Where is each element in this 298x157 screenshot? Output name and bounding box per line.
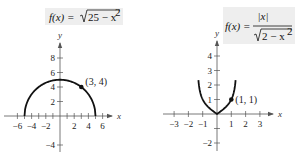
- y-axis-label: y: [57, 30, 62, 40]
- abs-over-sqrt-chart: f(x) = |x| 2 − x 2 xy −3−2−1123−21234 (1…: [163, 7, 295, 151]
- chart-canvas: f(x) = 25 − x 2 xy −6−4−2246−42468 (3, 4…: [0, 0, 298, 157]
- axes: xy: [4, 30, 121, 152]
- y-tick-label: 2: [51, 97, 56, 107]
- x-tick-label: 3: [258, 119, 263, 129]
- data-point: [229, 97, 234, 102]
- x-tick-label: 6: [100, 121, 105, 131]
- formula-exponent: 2: [115, 6, 121, 18]
- y-tick-label: 2: [208, 80, 213, 90]
- formula-exponent: 2: [287, 25, 293, 37]
- x-tick-label: −1: [198, 119, 208, 129]
- y-tick-label: −4: [45, 140, 55, 150]
- x-tick-label: −3: [169, 119, 179, 129]
- point-label: (1, 1): [235, 94, 257, 106]
- series: (3, 4): [25, 76, 107, 116]
- y-tick-label: 4: [208, 51, 213, 61]
- x-tick-label: 2: [243, 119, 248, 129]
- y-tick-label: 8: [51, 53, 56, 63]
- formula-radicand: 25 − x: [88, 11, 117, 23]
- formula-lhs: f(x) =: [225, 20, 250, 33]
- formula-radicand: 2 − x: [262, 30, 285, 42]
- x-axis-label: x: [277, 109, 282, 119]
- axes: xy: [163, 28, 282, 151]
- x-tick-label: −4: [27, 121, 37, 131]
- x-tick-label: −2: [41, 121, 51, 131]
- y-tick-label: 6: [51, 68, 56, 78]
- y-axis-label: y: [214, 28, 219, 38]
- x-tick-label: −6: [13, 121, 23, 131]
- semicircle-chart: f(x) = 25 − x 2 xy −6−4−2246−42468 (3, 4…: [4, 6, 123, 152]
- y-tick-label: 4: [51, 82, 56, 92]
- x-axis-label: x: [116, 111, 121, 121]
- data-point: [79, 85, 84, 90]
- x-tick-label: 2: [72, 121, 77, 131]
- x-tick-label: 4: [86, 121, 91, 131]
- x-tick-label: 1: [229, 119, 234, 129]
- formula-lhs: f(x) =: [49, 11, 74, 24]
- y-tick-label: −2: [202, 138, 212, 148]
- x-tick-label: −2: [184, 119, 194, 129]
- y-tick-label: 1: [208, 95, 213, 105]
- y-tick-label: 3: [208, 66, 213, 76]
- point-label: (3, 4): [85, 76, 107, 88]
- formula-numerator: |x|: [258, 10, 269, 22]
